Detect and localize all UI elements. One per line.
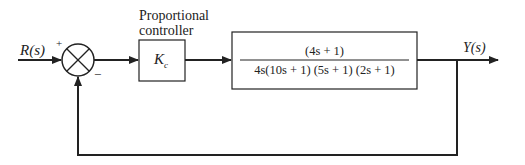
- plus-sign: +: [56, 38, 62, 49]
- output-label: Y(s): [463, 41, 486, 55]
- controller-caption-line2: controller: [139, 24, 193, 38]
- minus-sign: −: [94, 68, 101, 81]
- diagram-lines: [0, 0, 525, 165]
- gain-symbol: K: [154, 51, 164, 67]
- gain-subscript: c: [164, 60, 168, 70]
- plant-denominator: 4s(10s + 1) (5s + 1) (2s + 1): [232, 64, 417, 77]
- plant-numerator: (4s + 1): [232, 45, 417, 58]
- controller-caption-line1: Proportional: [139, 9, 209, 23]
- controller-gain: Kc: [154, 52, 168, 70]
- input-label: R(s): [20, 43, 45, 58]
- summing-junction: [62, 44, 94, 76]
- block-diagram: R(s) + − Proportional controller Kc (4s …: [0, 0, 525, 165]
